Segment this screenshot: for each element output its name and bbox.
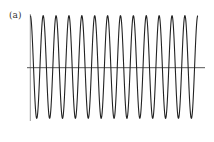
- wave-plot: [0, 0, 214, 142]
- cosine-wave-line: [30, 16, 198, 119]
